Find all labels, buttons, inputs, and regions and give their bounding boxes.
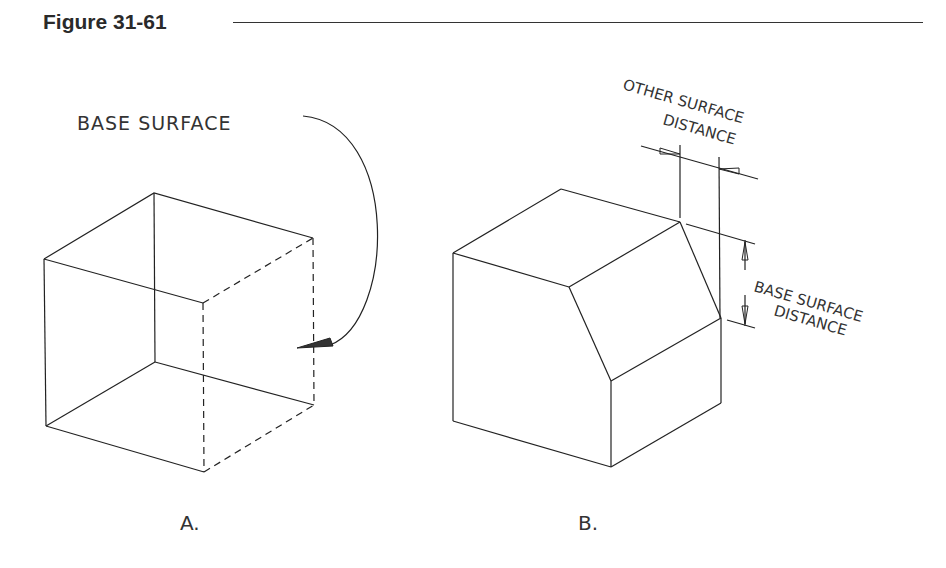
- base-surface-leader: [297, 116, 378, 348]
- panel-a-label: A.: [180, 511, 200, 535]
- cube-a: [44, 193, 314, 472]
- base-surface-callout: BASE SURFACE: [77, 112, 231, 134]
- other-surface-dimension: [641, 145, 758, 318]
- panel-b-label: B.: [578, 511, 598, 535]
- diagram-canvas: BASE SURFACE A. OTHER SURFACE DISTANCE B…: [0, 0, 946, 568]
- cube-b: [453, 189, 721, 467]
